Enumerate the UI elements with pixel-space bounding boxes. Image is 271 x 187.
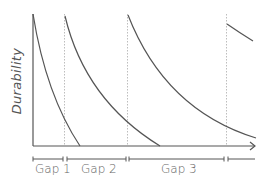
gap-label-3: Gap 3 (161, 162, 197, 176)
axes (33, 14, 255, 150)
gap-label-2: Gap 2 (81, 162, 117, 176)
durability-curves (33, 14, 256, 146)
curve-4 (227, 24, 253, 41)
gap-label-1: Gap 1 (35, 162, 71, 176)
curve-3 (128, 15, 256, 138)
y-axis-label: Durability (9, 46, 25, 116)
curve-1 (33, 14, 80, 146)
durability-gap-diagram: Durability Gap 1 Gap 2 Gap 3 (0, 0, 271, 187)
curve-2 (65, 16, 160, 146)
gap-boundaries (65, 14, 227, 146)
diagram-svg (0, 0, 271, 187)
gap-brackets (33, 157, 255, 162)
